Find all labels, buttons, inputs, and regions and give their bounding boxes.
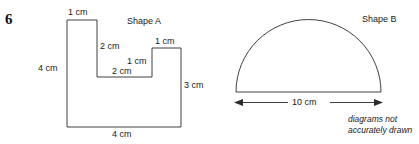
shape-b-label-diameter: 10 cm [292, 97, 317, 108]
shape-a-label-right-height: 3 cm [184, 80, 204, 91]
worksheet-figure-panel: 6 1 cm Shape A 2 cm 1 cm 1 cm 2 cm 4 cm … [0, 0, 419, 144]
footnote-line-1: diagrams not [348, 114, 397, 124]
shape-b-semicircle [236, 20, 381, 92]
shape-b-title: Shape B [362, 14, 397, 25]
shape-a-label-inner-step-lower: 2 cm [112, 66, 132, 77]
shape-a-title: Shape A [127, 16, 161, 27]
shape-a-label-step-top: 1 cm [155, 36, 175, 47]
footnote-line-2: accurately drawn [348, 125, 412, 135]
shape-a-label-bottom-width: 4 cm [112, 129, 132, 140]
shape-a-label-inner-vertical: 2 cm [100, 41, 120, 52]
shape-a-label-left-height: 4 cm [38, 63, 58, 74]
shape-a-label-top-left: 1 cm [68, 7, 88, 18]
